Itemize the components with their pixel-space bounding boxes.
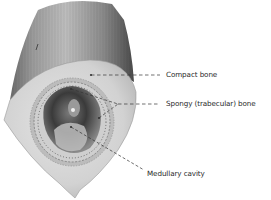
label-medullary-cavity: Medullary cavity <box>147 170 205 177</box>
label-spongy-bone: Spongy (trabecular) bone <box>166 100 256 107</box>
bone-cross-section-diagram: Compact bone Spongy (trabecular) bone Me… <box>0 0 271 200</box>
label-compact-bone: Compact bone <box>166 71 217 78</box>
